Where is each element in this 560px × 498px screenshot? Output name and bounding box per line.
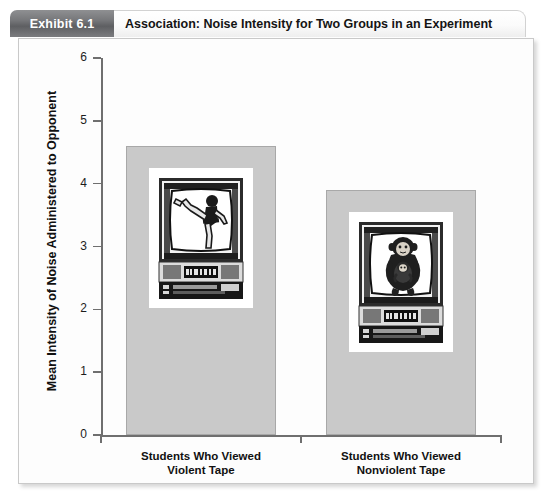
y-axis-tick (93, 309, 101, 311)
exhibit-number-tab: Exhibit 6.1 (10, 10, 114, 37)
x-axis-category-label: Students Who ViewedViolent Tape (101, 449, 301, 477)
exhibit-title-bar: Association: Noise Intensity for Two Gro… (114, 10, 526, 37)
y-axis-tick-label: 0 (65, 427, 87, 441)
y-axis-tick (93, 371, 101, 373)
television-with-chimpanzee-icon (349, 212, 453, 352)
y-axis-tick (93, 246, 101, 248)
y-axis-tick-label: 5 (65, 113, 87, 127)
exhibit-title: Association: Noise Intensity for Two Gro… (114, 17, 492, 31)
x-axis-tick (500, 435, 502, 443)
exhibit-header: Exhibit 6.1 Association: Noise Intensity… (10, 10, 526, 37)
y-axis-tick-label: 1 (65, 364, 87, 378)
y-axis-tick (93, 120, 101, 122)
television-with-martial-arts-kick-icon (149, 168, 253, 308)
category-label-line: Nonviolent Tape (301, 463, 501, 477)
tv-violent-svg (155, 174, 247, 302)
x-axis-category-label: Students Who ViewedNonviolent Tape (301, 449, 501, 477)
y-axis-tick-label: 4 (65, 176, 87, 190)
y-axis-tick (93, 183, 101, 185)
y-axis-tick (93, 57, 101, 59)
y-axis-tick-label: 3 (65, 239, 87, 253)
y-axis-tick-label: 6 (65, 50, 87, 64)
y-axis-title: Mean Intensity of Noise Administered to … (45, 76, 59, 406)
x-axis-tick (100, 435, 102, 443)
y-axis-tick-label: 2 (65, 301, 87, 315)
plot-area: Mean Intensity of Noise Administered to … (19, 39, 535, 485)
category-label-line: Students Who Viewed (301, 449, 501, 463)
category-label-line: Violent Tape (101, 463, 301, 477)
category-label-line: Students Who Viewed (101, 449, 301, 463)
chart-panel: Mean Intensity of Noise Administered to … (18, 38, 534, 484)
x-axis-tick (300, 435, 302, 443)
tv-nonviolent-svg (355, 218, 447, 346)
exhibit-number-label: Exhibit 6.1 (30, 17, 95, 31)
y-axis-line (101, 58, 103, 436)
